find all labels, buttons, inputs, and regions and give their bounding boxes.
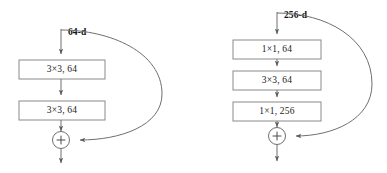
basic-block-layer-0: 3×3, 64 [19,60,105,79]
basic-block-skip-connection [61,30,162,140]
bottleneck-block-layer-2-label: 1×1, 256 [259,106,295,116]
basic-block-layer-0-label: 3×3, 64 [47,64,78,74]
basic-block-sum-node [53,132,70,149]
bottleneck-block-layer-1-label: 3×3, 64 [262,75,293,85]
bottleneck-block-layer-1: 3×3, 64 [233,71,321,90]
diagram-canvas: 64-d 3×3, 64 3×3, 64 [0,0,387,173]
basic-block-layer-1: 3×3, 64 [19,101,105,120]
bottleneck-block-sum-node [269,128,286,145]
bottleneck-block-layer-0: 1×1, 64 [233,40,321,59]
bottleneck-block-layer-2: 1×1, 256 [233,102,321,121]
bottleneck-block-layer-0-label: 1×1, 64 [262,44,293,54]
basic-block-layer-1-label: 3×3, 64 [47,105,78,115]
basic-block-input-dim-label: 64-d [68,27,87,37]
basic-residual-block: 64-d 3×3, 64 3×3, 64 [19,27,162,163]
resnet-block-figure: 64-d 3×3, 64 3×3, 64 [0,0,387,173]
bottleneck-residual-block: 256-d 1×1, 64 3×3, 64 1×1, 256 [233,10,372,161]
